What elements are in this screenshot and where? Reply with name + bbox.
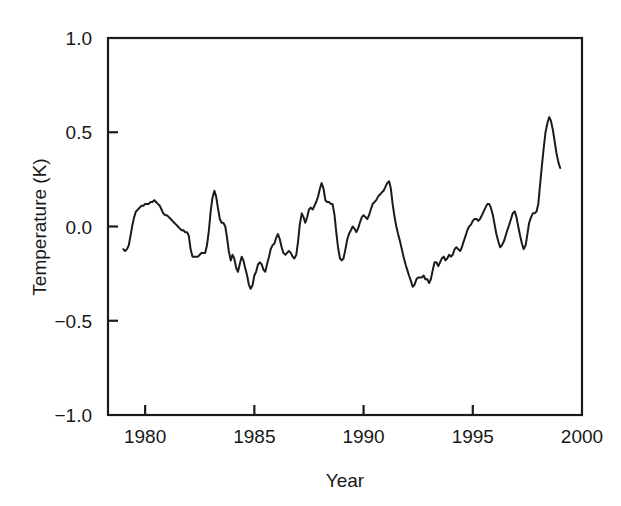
y-axis-tick-marks bbox=[108, 132, 118, 321]
y-tick-label: 0.0 bbox=[66, 217, 92, 238]
y-axis-tick-labels: −1.0−0.50.00.51.0 bbox=[54, 28, 92, 426]
temperature-anomaly-line-chart: −1.0−0.50.00.51.0 19801985199019952000 T… bbox=[0, 0, 621, 506]
x-axis-tick-marks bbox=[145, 405, 473, 415]
y-tick-label: −0.5 bbox=[54, 311, 92, 332]
chart-figure: −1.0−0.50.00.51.0 19801985199019952000 T… bbox=[0, 0, 621, 506]
x-tick-label: 1985 bbox=[233, 426, 275, 447]
y-tick-label: −1.0 bbox=[54, 405, 92, 426]
y-tick-label: 1.0 bbox=[66, 28, 92, 49]
x-axis-title: Year bbox=[326, 470, 365, 491]
x-tick-label: 1980 bbox=[124, 426, 166, 447]
x-axis-tick-labels: 19801985199019952000 bbox=[124, 426, 603, 447]
x-tick-label: 1995 bbox=[452, 426, 494, 447]
x-tick-label: 2000 bbox=[561, 426, 603, 447]
y-axis-title: Temperature (K) bbox=[29, 158, 50, 295]
y-tick-label: 0.5 bbox=[66, 122, 92, 143]
x-tick-label: 1990 bbox=[342, 426, 384, 447]
temperature-series-line bbox=[123, 117, 560, 289]
